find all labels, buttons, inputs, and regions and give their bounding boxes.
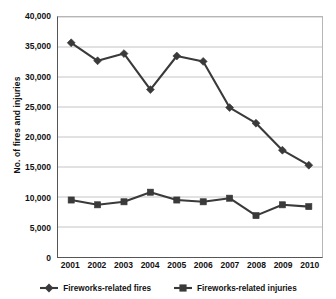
x-tick-label: 2003 (114, 260, 133, 270)
legend-item[interactable]: Fireworks-related fires (39, 279, 151, 297)
x-tick-label: 2009 (274, 260, 293, 270)
x-tick-label: 2004 (141, 260, 160, 270)
x-tick-label: 2001 (61, 260, 80, 270)
data-point-marker (200, 199, 206, 205)
series-2 (68, 189, 312, 219)
series-1 (67, 39, 313, 169)
y-tick-label: 5,000 (30, 223, 51, 233)
chart-legend: Fireworks-related firesFireworks-related… (0, 279, 336, 297)
legend-diamond-marker-icon (39, 279, 59, 297)
data-point-marker (121, 199, 127, 205)
x-tick-label: 2006 (194, 260, 213, 270)
plot-svg (58, 17, 322, 257)
y-axis-tick-labels: 40,00035,00030,00025,00020,00015,00010,0… (0, 0, 55, 299)
y-tick-label: 25,000 (25, 102, 51, 112)
plot-area (57, 16, 323, 258)
y-tick-label: 20,000 (25, 132, 51, 142)
x-tick-label: 2007 (220, 260, 239, 270)
data-point-marker (147, 189, 153, 195)
legend-square-marker-icon (173, 279, 193, 297)
legend-label: Fireworks-related injuries (197, 284, 297, 293)
x-tick-label: 2010 (300, 260, 319, 270)
legend-item[interactable]: Fireworks-related injuries (173, 279, 297, 297)
y-tick-label: 35,000 (25, 41, 51, 51)
data-point-marker (306, 204, 312, 210)
y-tick-label: 0 (46, 253, 51, 263)
data-point-marker (253, 213, 259, 219)
fireworks-line-chart: No. of fires and injuries 40,00035,00030… (0, 0, 336, 299)
data-point-marker (279, 202, 285, 208)
x-axis-tick-labels: 2001200220032004200520062007200820092010 (57, 260, 323, 276)
x-tick-label: 2005 (167, 260, 186, 270)
series-line (71, 192, 309, 215)
y-tick-label: 30,000 (25, 72, 51, 82)
y-tick-label: 15,000 (25, 162, 51, 172)
data-point-marker (68, 197, 74, 203)
x-tick-label: 2002 (87, 260, 106, 270)
data-point-marker (174, 197, 180, 203)
x-tick-label: 2008 (247, 260, 266, 270)
legend-label: Fireworks-related fires (63, 284, 151, 293)
data-point-marker (227, 195, 233, 201)
y-tick-label: 40,000 (25, 11, 51, 21)
y-tick-label: 10,000 (25, 193, 51, 203)
data-point-marker (95, 202, 101, 208)
series-line (71, 43, 309, 165)
